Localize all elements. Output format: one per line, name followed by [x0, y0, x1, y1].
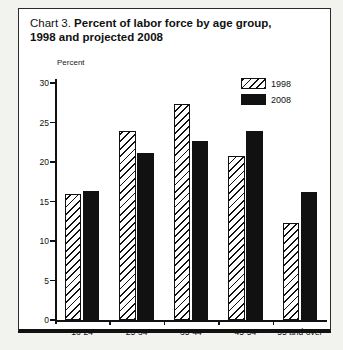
bar-2008-16-24: [83, 191, 100, 320]
bar-2008-25-34: [137, 153, 154, 320]
chart-title-prefix: Chart 3.: [30, 17, 74, 29]
bar-2008-45-54: [246, 131, 263, 320]
y-tick-label-5: 5: [31, 277, 49, 285]
bar-1998-45-54: [228, 156, 245, 320]
y-axis-tick-labels: 051015202530: [29, 83, 49, 320]
y-tick-label-15: 15: [31, 198, 49, 206]
x-category-label-35-44: 35-44: [164, 327, 218, 337]
x-tick-2: [164, 320, 166, 325]
y-tick-20: [50, 161, 55, 163]
bar-1998-55-and-over: [283, 223, 300, 320]
chart-title-main-1: Percent of labor force by age group,: [74, 17, 271, 29]
x-tick-4: [273, 320, 275, 325]
x-tick-3: [218, 320, 220, 325]
y-tick-25: [50, 122, 55, 124]
y-tick-label-20: 20: [31, 158, 49, 166]
bar-2008-55-and-over: [301, 192, 318, 320]
plot-area: 051015202530 16-2425-3435-4445-5455 and …: [55, 83, 327, 320]
chart-title: Chart 3. Percent of labor force by age g…: [30, 16, 322, 44]
chart-title-line-1: Chart 3. Percent of labor force by age g…: [30, 16, 322, 30]
x-category-label-25-34: 25-34: [109, 327, 163, 337]
y-tick-15: [50, 201, 55, 203]
x-category-label-45-54: 45-54: [218, 327, 272, 337]
y-tick-30: [50, 82, 55, 84]
y-tick-label-30: 30: [31, 79, 49, 87]
x-category-label-16-24: 16-24: [55, 327, 109, 337]
bar-1998-16-24: [65, 194, 82, 320]
y-tick-label-25: 25: [31, 119, 49, 127]
y-axis-label: Percent: [57, 58, 85, 67]
y-tick-label-10: 10: [31, 237, 49, 245]
chart-figure: Chart 3. Percent of labor force by age g…: [0, 0, 343, 350]
x-tick-1: [109, 320, 111, 325]
bar-1998-35-44: [174, 104, 191, 320]
bar-1998-25-34: [119, 131, 136, 320]
y-tick-5: [50, 280, 55, 282]
bar-2008-35-44: [192, 141, 209, 320]
chart-card: Chart 3. Percent of labor force by age g…: [18, 8, 331, 333]
y-tick-0: [50, 319, 55, 321]
y-tick-label-0: 0: [31, 316, 49, 324]
x-category-label-55-and-over: 55 and over: [273, 327, 327, 337]
x-axis-line: [55, 320, 327, 322]
chart-title-main-2: 1998 and projected 2008: [30, 30, 322, 44]
y-tick-10: [50, 240, 55, 242]
y-axis-line: [55, 79, 57, 324]
